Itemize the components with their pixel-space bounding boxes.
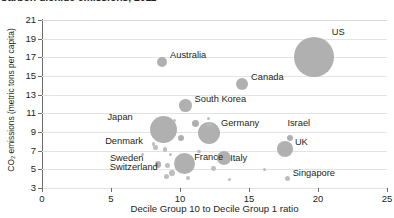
gridline <box>42 76 387 77</box>
point-label-italy: Italy <box>230 153 247 163</box>
x-tick-label: 5 <box>99 193 123 204</box>
x-tick-label: 25 <box>375 193 394 204</box>
y-tick: 7 <box>42 151 43 152</box>
x-tick-mark <box>387 188 388 192</box>
y-tick-mark <box>38 113 42 114</box>
y-tick-mark <box>38 57 42 58</box>
bubble-unlabeled-12[interactable] <box>186 176 190 180</box>
y-tick: 5 <box>42 169 43 170</box>
point-label-south-korea: South Korea <box>195 94 247 104</box>
y-tick-label: 9 <box>12 126 36 137</box>
y-tick-mark <box>38 39 42 40</box>
y-tick-label: 21 <box>12 14 36 25</box>
y-tick-label: 5 <box>12 163 36 174</box>
y-tick: 19 <box>42 39 43 40</box>
point-label-france: France <box>194 152 223 162</box>
point-label-germany: Germany <box>221 118 259 128</box>
y-tick-label: 15 <box>12 70 36 81</box>
x-tick-label: 10 <box>168 193 192 204</box>
chart-title: Carbon dioxide emissions, 2011 <box>0 0 156 3</box>
bubble-unlabeled-3[interactable] <box>178 135 184 141</box>
gridline <box>42 20 387 21</box>
x-axis-title: Decile Group 10 to Decile Group 1 ratio <box>42 203 387 214</box>
bubble-unlabeled-2[interactable] <box>206 122 211 127</box>
y-tick-mark <box>38 151 42 152</box>
y-tick-mark <box>38 95 42 96</box>
point-label-australia: Australia <box>170 50 206 60</box>
y-tick-label: 11 <box>12 107 36 118</box>
y-tick: 15 <box>42 76 43 77</box>
point-label-japan: Japan <box>107 112 132 122</box>
y-tick: 17 <box>42 57 43 58</box>
y-tick: 9 <box>42 132 43 133</box>
bubble-france[interactable] <box>174 153 195 174</box>
y-tick-mark <box>38 169 42 170</box>
point-label-us: US <box>332 27 345 37</box>
point-label-israel: Israel <box>287 118 310 128</box>
point-label-canada: Canada <box>251 72 284 82</box>
gridline <box>42 113 387 114</box>
y-tick-label: 7 <box>12 145 36 156</box>
gridline <box>42 57 387 58</box>
gridline <box>42 188 387 189</box>
point-label-singapore: Singapore <box>293 168 335 178</box>
point-label-denmark: Denmark <box>105 136 143 146</box>
bubble-unlabeled-7[interactable] <box>169 153 172 156</box>
x-tick-label: 0 <box>30 193 54 204</box>
x-tick-label: 15 <box>237 193 261 204</box>
y-tick-mark <box>38 76 42 77</box>
gridline <box>42 39 387 40</box>
y-tick: 11 <box>42 113 43 114</box>
point-label-switzerland: Switzerland <box>110 162 158 172</box>
y-tick-mark <box>38 132 42 133</box>
x-tick-label: 20 <box>306 193 330 204</box>
x-tick-mark <box>42 188 43 192</box>
x-tick-mark <box>318 188 319 192</box>
y-tick: 21 <box>42 20 43 21</box>
bubble-switzerland[interactable] <box>169 170 175 176</box>
y-tick-label: 13 <box>12 89 36 100</box>
x-tick-mark <box>180 188 181 192</box>
bubble-unlabeled-10[interactable] <box>211 166 216 171</box>
y-tick-label: 17 <box>12 51 36 62</box>
bubble-us[interactable] <box>294 37 334 77</box>
y-tick-label: 3 <box>12 182 36 193</box>
bubble-chart: Carbon dioxide emissions, 2011 CO₂ emiss… <box>0 0 394 218</box>
point-label-uk: UK <box>295 137 308 147</box>
bubble-unlabeled-5[interactable] <box>163 147 168 152</box>
bubble-unlabeled-1[interactable] <box>192 120 199 127</box>
y-tick: 13 <box>42 95 43 96</box>
bubble-unlabeled-14[interactable] <box>263 168 266 171</box>
bubble-uk[interactable] <box>277 141 293 157</box>
y-tick-label: 19 <box>12 33 36 44</box>
x-tick-mark <box>249 188 250 192</box>
x-tick-mark <box>111 188 112 192</box>
plot-area <box>42 20 387 188</box>
y-tick-mark <box>38 20 42 21</box>
